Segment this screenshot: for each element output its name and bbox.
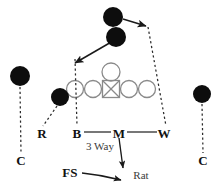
dash-safety-drop-to-w [148, 27, 166, 126]
dash-safety-drop-to-b [75, 59, 77, 126]
defender-rover [51, 88, 69, 106]
defender-group [10, 7, 211, 106]
quarterback-circle [102, 63, 120, 81]
lineman-left-inside [85, 81, 102, 98]
label-three-way: 3 Way [86, 141, 114, 152]
label-cornerback-left: C [16, 154, 26, 167]
defender-cornerback-right [193, 85, 211, 103]
dash-cornerback-right-to-c [202, 104, 203, 153]
label-buck: B [73, 127, 82, 140]
arrow-mike-to-rat [119, 138, 123, 168]
dash-rover-to-r [43, 106, 57, 126]
lineman-right-inside [121, 81, 138, 98]
defender-safety-second [106, 27, 126, 47]
lineman-left-outside [67, 81, 84, 98]
label-will: W [157, 127, 170, 140]
label-mike: M [113, 127, 125, 140]
mike-drop-arrow [119, 138, 123, 168]
lineman-right-outside [139, 81, 156, 98]
arrow-safety-to-right [123, 19, 146, 26]
center-box [103, 81, 120, 98]
free-safety-arrow [82, 173, 121, 180]
label-rover: R [37, 127, 47, 140]
play-diagram: R B M W C C FS 3 Way Rat [0, 0, 221, 192]
defender-safety-top [103, 7, 123, 27]
arrow-fs-to-rat [82, 173, 121, 180]
defender-cornerback-left [10, 66, 30, 86]
label-free-safety: FS [62, 166, 78, 179]
label-cornerback-right: C [198, 154, 208, 167]
play-diagram-canvas [0, 0, 221, 192]
arrow-safety-down-left [75, 41, 113, 63]
label-rat: Rat [133, 170, 148, 181]
dash-cornerback-left-to-c [20, 87, 21, 153]
